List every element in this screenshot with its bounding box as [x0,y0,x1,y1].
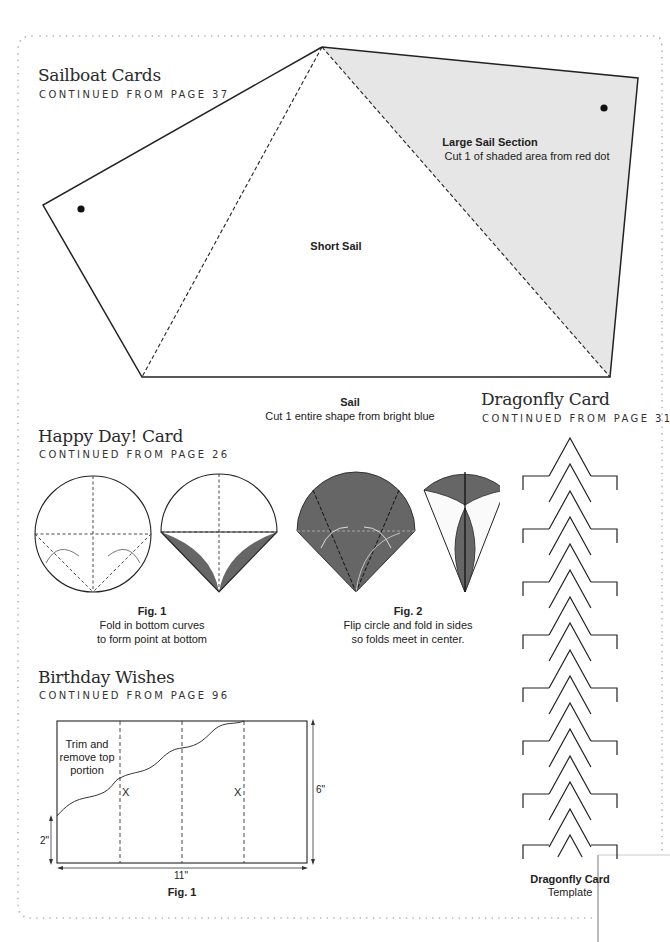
dragonfly-wing-left [523,476,549,490]
dragonfly-wing-left [523,845,549,859]
dragonfly-wing-left [523,529,549,543]
dragonfly-template [0,0,670,870]
dragonfly-wing-left [523,794,549,808]
dragonfly-chevron [549,650,591,688]
dragonfly-chevron [549,491,591,529]
dragonfly-wing-right [591,688,617,702]
dragonfly-chevron [549,464,591,502]
dragonfly-chevron [549,756,591,794]
dragonfly-chevron [549,438,591,476]
dragonfly-wing-right [591,476,617,490]
dragonfly-chevron [549,676,591,714]
dragonfly-wing-right [591,741,617,755]
dragonfly-wing-right [591,529,617,543]
dragonfly-wing-left [523,635,549,649]
dragonfly-wing-left [523,688,549,702]
dragonfly-wing-right [591,845,617,859]
dragonfly-wing-left [523,741,549,755]
dragonfly-chevron [549,570,591,608]
dragonfly-chevron [549,544,591,582]
dragonfly-chevron [549,703,591,741]
dragonfly-chevron [558,835,582,857]
dragonfly-chevron [549,782,591,820]
dragonfly-chevron [549,729,591,767]
dragonfly-wing-left [523,582,549,596]
dragonfly-template-label: Dragonfly Card [530,873,609,885]
dragonfly-chevron [549,597,591,635]
dragonfly-template-note: Template [548,886,593,898]
dragonfly-chevron [549,809,591,847]
dragonfly-chevron [549,517,591,555]
dragonfly-wing-right [591,582,617,596]
dragonfly-chevron [549,623,591,661]
dragonfly-wing-right [591,635,617,649]
width-label: 11" [174,870,188,881]
dragonfly-wing-right [591,794,617,808]
birthday-fig-label: Fig. 1 [168,886,197,898]
